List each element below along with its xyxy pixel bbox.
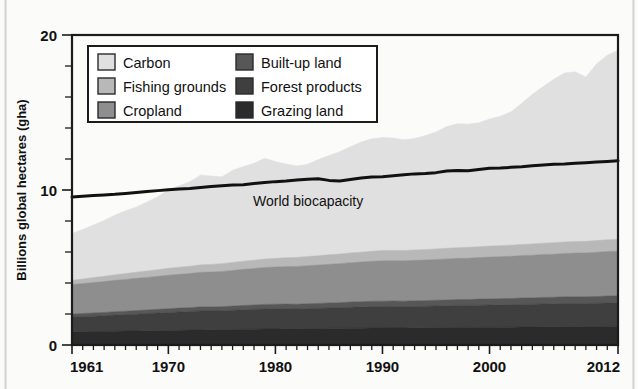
x-axis: 196119701980199020002012 <box>70 345 620 375</box>
y-tick-label: 20 <box>40 27 57 44</box>
x-tick-label: 1970 <box>152 358 185 375</box>
legend-swatch-carbon <box>98 54 115 70</box>
legend-swatch-built-up-land <box>236 54 253 70</box>
legend-label-cropland: Cropland <box>123 103 182 119</box>
legend-label-built-up-land: Built-up land <box>261 55 342 71</box>
legend: CarbonFishing groundsCroplandBuilt-up la… <box>88 46 377 122</box>
legend-swatch-fishing-grounds <box>98 78 115 94</box>
ecological-footprint-area-chart: World biocapacity 01020 Billions global … <box>0 0 638 389</box>
legend-label-carbon: Carbon <box>123 55 171 71</box>
legend-label-fishing-grounds: Fishing grounds <box>123 79 226 95</box>
x-tick-label: 2012 <box>587 358 620 375</box>
figure-page: World biocapacity 01020 Billions global … <box>0 0 638 389</box>
y-tick-label: 0 <box>49 337 57 354</box>
legend-label-forest-products: Forest products <box>261 79 362 95</box>
legend-label-grazing-land: Grazing land <box>261 103 343 119</box>
y-tick-label: 10 <box>40 182 57 199</box>
x-tick-label: 2000 <box>473 358 506 375</box>
y-axis: 01020 Billions global hectares (gha) <box>14 27 72 354</box>
y-axis-title: Billions global hectares (gha) <box>14 99 29 280</box>
x-tick-label: 1980 <box>259 358 292 375</box>
x-tick-label: 1961 <box>70 358 103 375</box>
world-biocapacity-label: World biocapacity <box>253 193 363 209</box>
legend-swatch-forest-products <box>236 78 253 94</box>
legend-swatch-grazing-land <box>236 102 253 118</box>
x-tick-label: 1990 <box>366 358 399 375</box>
legend-swatch-cropland <box>98 102 115 118</box>
